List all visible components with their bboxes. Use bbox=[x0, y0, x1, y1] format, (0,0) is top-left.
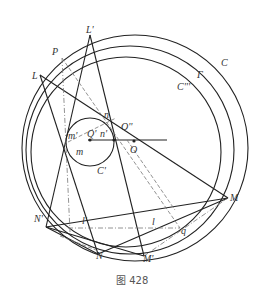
label-O-double: O'' bbox=[121, 121, 133, 132]
label-N: N bbox=[95, 250, 104, 261]
label-m-prime: m' bbox=[68, 130, 78, 141]
label-n-prime: n' bbox=[100, 128, 108, 139]
dashed-P-q bbox=[62, 58, 180, 228]
label-C: C bbox=[221, 57, 228, 68]
label-N-prime: N' bbox=[33, 213, 44, 224]
label-M: M bbox=[229, 192, 239, 203]
circle-C-prime bbox=[66, 118, 114, 166]
figure-caption: 图 428 bbox=[116, 275, 148, 286]
line-Np-Mp bbox=[46, 227, 144, 256]
label-Q-prime: Q' bbox=[87, 128, 97, 139]
label-C-prime: C' bbox=[97, 165, 107, 176]
line-L-N bbox=[40, 75, 98, 254]
label-q: q bbox=[181, 225, 186, 236]
label-m: m bbox=[76, 146, 83, 157]
label-n: n bbox=[104, 109, 109, 120]
label-l: l bbox=[152, 216, 155, 227]
label-C-triple: C''' bbox=[177, 81, 191, 92]
label-Gamma: Γ bbox=[196, 69, 203, 80]
label-P: P bbox=[51, 46, 58, 57]
dashed-Np-N-inner bbox=[60, 236, 96, 250]
circle-C-triple bbox=[31, 57, 221, 247]
label-l-prime: l' bbox=[82, 215, 88, 226]
label-M-prime: M' bbox=[142, 253, 154, 264]
label-O: O bbox=[130, 144, 137, 155]
point-O bbox=[132, 139, 135, 142]
label-L-prime: L' bbox=[85, 24, 95, 35]
label-L: L bbox=[31, 70, 38, 81]
geometry-figure: L' P L C Γ C''' n O'' m' Q' n' O m C' N'… bbox=[0, 0, 260, 292]
line-N-M bbox=[98, 198, 228, 254]
point-O-double bbox=[112, 138, 115, 141]
line-Np-M bbox=[46, 198, 228, 227]
